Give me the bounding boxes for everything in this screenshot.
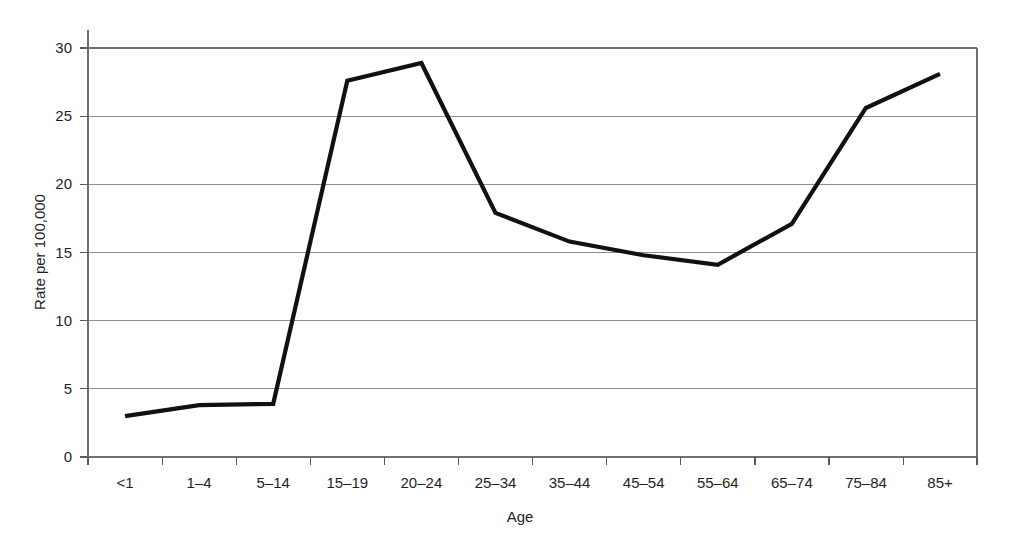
x-tick-label-65-74: 65–74	[771, 474, 813, 491]
y-axis-title: Rate per 100,000	[31, 194, 48, 310]
y-axis-tick-labels: 30 25 20 15 10 5 0	[55, 39, 72, 465]
chart-canvas: 30 25 20 15 10 5 0 <1 1–4 5–14	[0, 0, 1009, 548]
x-tick-label-55-64: 55–64	[697, 474, 739, 491]
x-tick-label-25-34: 25–34	[475, 474, 517, 491]
x-axis-tick-labels: <1 1–4 5–14 15–19 20–24 25–34 35–44 45–5…	[116, 474, 953, 491]
y-tick-label-30: 30	[55, 39, 72, 56]
x-axis-tick-marks	[88, 457, 977, 465]
x-axis-title: Age	[507, 508, 534, 525]
y-tick-label-15: 15	[55, 244, 72, 261]
y-tick-label-0: 0	[64, 448, 72, 465]
x-tick-label-5-14: 5–14	[257, 474, 290, 491]
x-tick-label-lt1: <1	[116, 474, 133, 491]
y-tick-label-10: 10	[55, 312, 72, 329]
x-tick-label-85plus: 85+	[927, 474, 953, 491]
y-tick-label-25: 25	[55, 107, 72, 124]
x-tick-label-20-24: 20–24	[401, 474, 443, 491]
y-tick-label-20: 20	[55, 175, 72, 192]
plot-frame	[88, 30, 977, 457]
x-tick-label-75-84: 75–84	[845, 474, 887, 491]
x-tick-label-1-4: 1–4	[187, 474, 212, 491]
y-tick-label-5: 5	[64, 380, 72, 397]
x-tick-label-15-19: 15–19	[326, 474, 368, 491]
x-tick-label-45-54: 45–54	[623, 474, 665, 491]
line-chart: 30 25 20 15 10 5 0 <1 1–4 5–14	[0, 0, 1009, 548]
gridlines	[88, 116, 977, 389]
y-axis-tick-marks	[80, 48, 88, 457]
x-tick-label-35-44: 35–44	[549, 474, 591, 491]
